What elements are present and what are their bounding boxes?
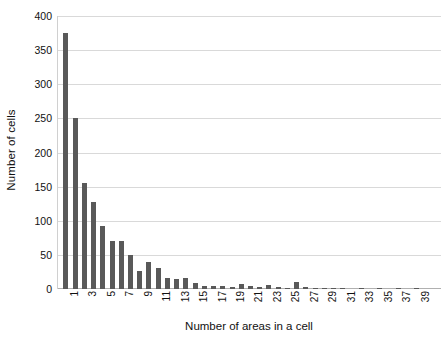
bar: [285, 288, 290, 289]
bar: [165, 278, 170, 289]
bar: [313, 288, 318, 289]
bar: [73, 118, 78, 289]
bar: [91, 202, 96, 289]
x-tick-label: 23: [272, 291, 283, 302]
x-tick-label: 17: [217, 291, 228, 302]
x-tick-label: 19: [235, 291, 246, 302]
x-tick-label: 3: [87, 291, 98, 297]
bar: [303, 287, 308, 289]
x-tick-label: 29: [327, 291, 338, 302]
y-tick-label: 100: [34, 215, 52, 227]
bar-chart-figure: Number of cells 050100150200250300350400…: [0, 0, 446, 343]
bar: [248, 286, 253, 289]
y-axis-title: Number of cells: [0, 0, 22, 300]
y-tick-label: 400: [34, 10, 52, 22]
y-tick-label: 350: [34, 44, 52, 56]
x-tick-label: 7: [124, 291, 135, 297]
y-axis-tick-labels: 050100150200250300350400: [22, 0, 56, 343]
x-tick-label: 15: [198, 291, 209, 302]
bar: [110, 241, 115, 289]
bar: [377, 288, 382, 289]
y-tick-label: 200: [34, 147, 52, 159]
bar: [340, 288, 345, 289]
bar: [257, 287, 262, 289]
x-tick-label: 13: [180, 291, 191, 302]
bar: [100, 226, 105, 289]
x-axis-tick-labels: 13579111315171921232527293133353739: [57, 291, 441, 319]
bar: [119, 241, 124, 289]
bar: [359, 288, 364, 289]
bar: [137, 271, 142, 289]
bar: [220, 286, 225, 289]
plot-area: [57, 16, 441, 289]
x-tick-label: 21: [253, 291, 264, 302]
x-tick-label: 25: [290, 291, 301, 302]
bar: [202, 286, 207, 289]
x-tick-label: 1: [69, 291, 80, 297]
y-tick-label: 250: [34, 112, 52, 124]
bar: [396, 288, 401, 289]
x-tick-label: 27: [309, 291, 320, 302]
y-tick-label: 150: [34, 181, 52, 193]
bar: [211, 286, 216, 289]
bars-layer: [58, 16, 441, 289]
y-tick-label: 50: [40, 249, 52, 261]
x-tick-label: 31: [346, 291, 357, 302]
y-axis-title-text: Number of cells: [5, 109, 17, 190]
x-tick-label: 39: [420, 291, 431, 302]
x-tick-label: 33: [364, 291, 375, 302]
bar: [193, 283, 198, 289]
bar: [128, 255, 133, 289]
bar: [63, 33, 68, 289]
bar: [331, 288, 336, 289]
x-tick-label: 37: [401, 291, 412, 302]
x-tick-label: 11: [161, 291, 172, 301]
bar: [266, 285, 271, 289]
bar: [146, 262, 151, 289]
x-tick-label: 35: [383, 291, 394, 302]
bar: [239, 284, 244, 289]
x-tick-label: 9: [143, 291, 154, 297]
bar: [156, 268, 161, 289]
y-tick-label: 0: [46, 283, 52, 295]
bar: [294, 282, 299, 290]
bar: [276, 287, 281, 289]
bar: [322, 288, 327, 289]
x-tick-label: 5: [106, 291, 117, 297]
y-tick-label: 300: [34, 78, 52, 90]
x-axis-title: Number of areas in a cell: [57, 320, 441, 332]
bar: [174, 279, 179, 289]
bar: [414, 288, 419, 289]
bar: [230, 287, 235, 289]
bar: [82, 183, 87, 289]
bar: [183, 278, 188, 289]
